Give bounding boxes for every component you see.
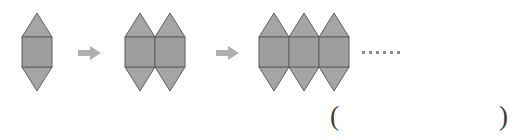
triangle-down — [319, 67, 349, 91]
figure-step-3-group — [259, 13, 349, 91]
figure-canvas: ( ) — [0, 0, 517, 140]
triangle-down — [289, 67, 319, 91]
square-tile — [289, 37, 319, 67]
triangle-down — [259, 67, 289, 91]
triangle-up — [259, 13, 289, 37]
triangle-up — [319, 13, 349, 37]
triangle-up — [289, 13, 319, 37]
square-tile — [319, 37, 349, 67]
square-tile — [259, 37, 289, 67]
figure-step-3 — [0, 0, 517, 140]
